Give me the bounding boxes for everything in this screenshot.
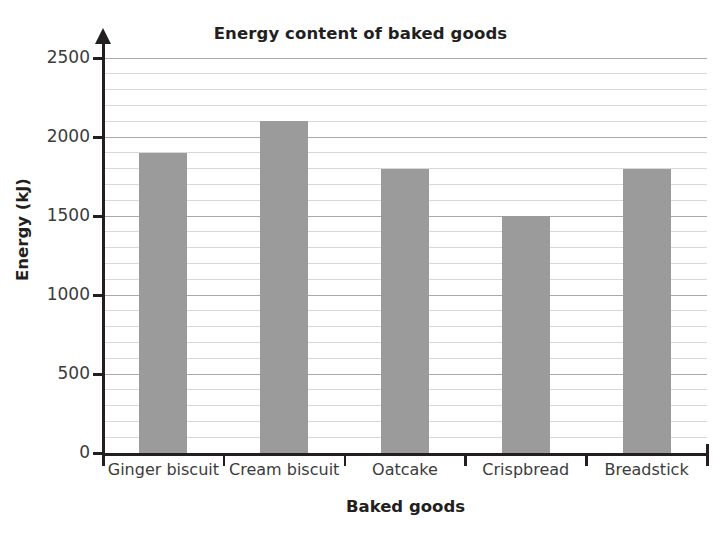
y-axis-tick-label: 0 (28, 442, 90, 462)
y-axis-tick (93, 294, 105, 297)
x-axis-title: Baked goods (103, 497, 708, 516)
gridline-major (103, 137, 707, 138)
x-axis-tick-label: Breadstick (586, 460, 707, 479)
gridline-minor (103, 89, 707, 90)
y-axis-title: Energy (kJ) (13, 140, 32, 320)
y-axis-tick-label: 2000 (28, 126, 90, 146)
gridline-minor (103, 121, 707, 122)
gridline-minor (103, 152, 707, 153)
bar (260, 121, 308, 453)
y-axis-tick-label: 1000 (28, 284, 90, 304)
y-axis-tick-label: 2500 (28, 47, 90, 67)
x-axis-tick-label: Oatcake (345, 460, 466, 479)
bar (623, 169, 671, 453)
bar-chart: Energy content of baked goods 0500100015… (0, 0, 721, 544)
x-axis-tick-label: Ginger biscuit (103, 460, 224, 479)
y-axis-tick (93, 57, 105, 60)
y-axis-tick (93, 136, 105, 139)
bar (139, 153, 187, 453)
y-axis-line (102, 38, 105, 455)
y-axis-tick-label: 500 (28, 363, 90, 383)
gridline-major (103, 58, 707, 59)
bar (502, 216, 550, 453)
x-axis-line (103, 453, 708, 456)
y-axis-tick (93, 215, 105, 218)
bar (381, 169, 429, 453)
gridline-minor (103, 73, 707, 74)
plot-area (103, 58, 707, 453)
y-axis-tick (93, 373, 105, 376)
y-axis-tick-label: 1500 (28, 205, 90, 225)
x-axis-tick-label: Crispbread (465, 460, 586, 479)
x-axis-tick-label: Cream biscuit (224, 460, 345, 479)
gridline-minor (103, 105, 707, 106)
